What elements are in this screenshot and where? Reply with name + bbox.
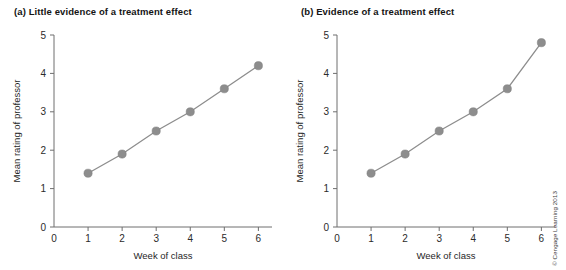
chart-panel-b: (b) Evidence of a treatment effect 01234… xyxy=(283,0,566,270)
x-tick-label: 0 xyxy=(334,233,340,244)
y-tick-label: 5 xyxy=(323,30,329,41)
data-point xyxy=(220,85,228,93)
y-tick-label: 3 xyxy=(323,106,329,117)
y-tick-label: 4 xyxy=(40,68,46,79)
x-tick-label: 4 xyxy=(187,233,193,244)
panel-a-plot: 0123450123456Week of classMean rating of… xyxy=(0,0,283,270)
series-line xyxy=(88,66,258,174)
data-point xyxy=(84,169,92,177)
x-tick-label: 2 xyxy=(402,233,408,244)
y-tick-label: 2 xyxy=(40,145,46,156)
figure-two-panel-line-charts: (a) Little evidence of a treatment effec… xyxy=(0,0,566,270)
x-tick-label: 6 xyxy=(539,233,545,244)
x-tick-label: 4 xyxy=(470,233,476,244)
data-point xyxy=(152,127,160,135)
copyright-text: © Cengage Learning 2013 xyxy=(551,191,558,266)
x-tick-label: 0 xyxy=(51,233,57,244)
data-point xyxy=(469,108,477,116)
x-tick-label: 3 xyxy=(153,233,159,244)
data-point xyxy=(503,85,511,93)
x-tick-label: 6 xyxy=(256,233,262,244)
data-point xyxy=(537,39,545,47)
y-tick-label: 1 xyxy=(40,183,46,194)
y-tick-label: 3 xyxy=(40,106,46,117)
x-tick-label: 3 xyxy=(436,233,442,244)
y-axis-title: Mean rating of professor xyxy=(294,80,305,183)
x-tick-label: 2 xyxy=(119,233,125,244)
y-tick-label: 0 xyxy=(323,222,329,233)
x-tick-label: 1 xyxy=(85,233,91,244)
data-point xyxy=(254,62,262,70)
x-tick-label: 5 xyxy=(505,233,511,244)
series-line xyxy=(371,43,541,174)
chart-panel-a: (a) Little evidence of a treatment effec… xyxy=(0,0,283,270)
y-tick-label: 2 xyxy=(323,145,329,156)
y-tick-label: 5 xyxy=(40,30,46,41)
data-point xyxy=(118,150,126,158)
x-axis-title: Week of class xyxy=(417,250,476,261)
copyright-credit: © Cengage Learning 2013 xyxy=(551,180,565,266)
data-point xyxy=(435,127,443,135)
data-point xyxy=(186,108,194,116)
x-tick-label: 5 xyxy=(222,233,228,244)
y-tick-label: 4 xyxy=(323,68,329,79)
data-point xyxy=(401,150,409,158)
data-point xyxy=(367,169,375,177)
y-axis-title: Mean rating of professor xyxy=(11,80,22,183)
x-tick-label: 1 xyxy=(368,233,374,244)
y-tick-label: 1 xyxy=(323,183,329,194)
x-axis-title: Week of class xyxy=(134,250,193,261)
panel-b-plot: 0123450123456Week of classMean rating of… xyxy=(283,0,566,270)
y-tick-label: 0 xyxy=(40,222,46,233)
